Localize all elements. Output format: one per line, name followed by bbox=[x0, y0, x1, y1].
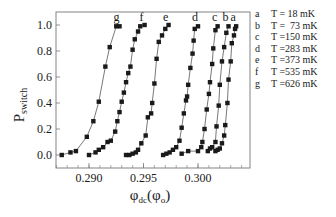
series-line-c bbox=[182, 26, 218, 153]
data-point bbox=[226, 77, 230, 81]
data-point bbox=[200, 140, 204, 144]
data-point bbox=[222, 133, 226, 137]
data-point bbox=[103, 64, 107, 68]
legend-item: cT =150 mK bbox=[255, 31, 318, 43]
data-point bbox=[218, 146, 222, 150]
legend-item: fT =535 mK bbox=[255, 66, 318, 78]
data-point bbox=[109, 139, 113, 143]
data-point bbox=[184, 98, 188, 102]
x-axis: 0.2900.2950.300 bbox=[56, 163, 241, 185]
data-point bbox=[182, 111, 186, 115]
data-point bbox=[230, 41, 234, 45]
data-point bbox=[211, 46, 215, 50]
data-point bbox=[186, 83, 190, 87]
legend-key: b bbox=[255, 20, 271, 32]
data-point bbox=[115, 119, 119, 123]
data-point bbox=[149, 111, 153, 115]
data-point bbox=[220, 59, 224, 63]
legend-item: aT = 18 mK bbox=[255, 8, 318, 20]
data-point bbox=[234, 24, 238, 28]
data-point bbox=[157, 40, 161, 44]
data-point bbox=[226, 24, 230, 28]
y-tick-label: 0.6 bbox=[37, 70, 52, 84]
legend: aT = 18 mKbT = 73 mKcT =150 mKdT =283 mK… bbox=[255, 8, 318, 89]
data-point bbox=[207, 92, 211, 96]
data-point bbox=[163, 27, 167, 31]
legend-label: T =535 mK bbox=[271, 66, 318, 78]
data-point bbox=[138, 24, 142, 28]
data-point bbox=[222, 45, 226, 49]
data-series bbox=[60, 23, 239, 157]
data-point bbox=[215, 24, 219, 28]
data-point bbox=[68, 150, 72, 154]
data-point bbox=[150, 101, 154, 105]
data-point bbox=[205, 107, 209, 111]
legend-label: T =626 mK bbox=[271, 78, 318, 90]
data-point bbox=[177, 139, 181, 143]
data-point bbox=[185, 94, 189, 98]
data-point bbox=[186, 149, 190, 153]
data-point bbox=[124, 80, 128, 84]
data-point bbox=[213, 140, 217, 144]
curve-label-g: g bbox=[114, 10, 120, 24]
data-point bbox=[139, 141, 143, 145]
data-point bbox=[136, 29, 140, 33]
data-point bbox=[160, 33, 164, 37]
data-point bbox=[101, 145, 105, 149]
data-point bbox=[91, 119, 95, 123]
legend-key: g bbox=[255, 78, 271, 90]
series-line-f bbox=[89, 25, 145, 155]
legend-label: T =150 mK bbox=[271, 31, 318, 43]
curve-label-b: b bbox=[223, 10, 229, 24]
x-tick-label: 0.300 bbox=[185, 171, 212, 185]
legend-key: a bbox=[255, 8, 271, 20]
data-point bbox=[97, 100, 101, 104]
y-axis-label: Pswitch bbox=[11, 88, 29, 122]
curve-label-d: d bbox=[192, 10, 198, 24]
data-point bbox=[136, 148, 140, 152]
legend-item: bT = 73 mK bbox=[255, 20, 318, 32]
data-point bbox=[146, 115, 150, 119]
data-point bbox=[210, 62, 214, 66]
data-point bbox=[179, 126, 183, 130]
data-point bbox=[223, 123, 227, 127]
y-tick-label: 0.2 bbox=[37, 122, 52, 136]
curve-label-c: c bbox=[212, 10, 217, 24]
data-point bbox=[117, 24, 121, 28]
data-point bbox=[97, 148, 101, 152]
y-tick-label: 0.8 bbox=[37, 44, 52, 58]
data-point bbox=[199, 145, 203, 149]
data-point bbox=[74, 149, 78, 153]
y-axis: 0.00.20.40.60.81.0 bbox=[37, 18, 60, 162]
data-point bbox=[87, 153, 91, 157]
data-point bbox=[191, 38, 195, 42]
legend-item: gT =626 mK bbox=[255, 78, 318, 90]
data-point bbox=[224, 31, 228, 35]
data-point bbox=[229, 59, 233, 63]
data-point bbox=[179, 152, 183, 156]
data-point bbox=[120, 100, 124, 104]
data-point bbox=[210, 145, 214, 149]
y-tick-label: 1.0 bbox=[37, 18, 52, 32]
legend-key: d bbox=[255, 43, 271, 55]
data-point bbox=[218, 83, 222, 87]
data-point bbox=[202, 127, 206, 131]
data-point bbox=[154, 57, 158, 61]
data-point bbox=[188, 66, 192, 70]
legend-key: f bbox=[255, 66, 271, 78]
legend-label: T =373 mK bbox=[271, 54, 318, 66]
legend-item: eT =373 mK bbox=[255, 54, 318, 66]
data-point bbox=[208, 80, 212, 84]
data-point bbox=[196, 24, 200, 28]
legend-label: T =283 mK bbox=[271, 43, 318, 55]
data-point bbox=[213, 28, 217, 32]
data-point bbox=[214, 124, 218, 128]
curve-label-f: f bbox=[140, 10, 144, 24]
x-tick-label: 0.290 bbox=[76, 171, 103, 185]
data-point bbox=[117, 110, 121, 114]
data-point bbox=[85, 135, 89, 139]
y-tick-label: 0.4 bbox=[37, 96, 52, 110]
data-point bbox=[217, 103, 221, 107]
data-point bbox=[225, 101, 229, 105]
legend-key: c bbox=[255, 31, 271, 43]
